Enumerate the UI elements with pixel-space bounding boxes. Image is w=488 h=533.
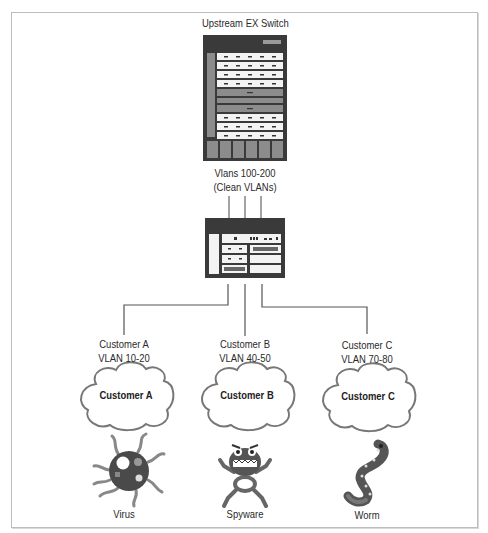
customer-a-vlan: VLAN 10-20 — [90, 351, 159, 365]
upstream-switch-title: Upstream EX Switch — [202, 16, 288, 30]
customer-c-name: Customer C — [333, 338, 402, 352]
spyware-icon — [220, 445, 270, 506]
customer-b-name: Customer B — [211, 337, 280, 351]
threat-label-worm: Worm — [341, 508, 393, 522]
customer-c-vlan: VLAN 70-80 — [333, 352, 402, 366]
access-switch-icon — [205, 218, 285, 278]
customer-b-vlan: VLAN 40-50 — [211, 351, 280, 365]
threat-label-spyware: Spyware — [219, 507, 271, 521]
downlink-lines — [124, 284, 367, 336]
diagram-canvas — [0, 0, 488, 533]
upstream-vlans-label: Vlans 100-200 — [202, 166, 288, 180]
virus-icon — [94, 434, 164, 506]
worm-icon — [348, 444, 384, 502]
uplink-lines — [229, 196, 261, 218]
cloud-label-customer-a: Customer A — [93, 389, 159, 401]
cloud-label-customer-c: Customer C — [335, 390, 401, 402]
cloud-label-customer-b: Customer B — [214, 389, 280, 401]
customer-a-name: Customer A — [90, 337, 159, 351]
threat-label-virus: Virus — [98, 507, 150, 521]
upstream-switch-icon — [203, 35, 287, 161]
upstream-clean-vlans-label: (Clean VLANs) — [202, 180, 288, 194]
